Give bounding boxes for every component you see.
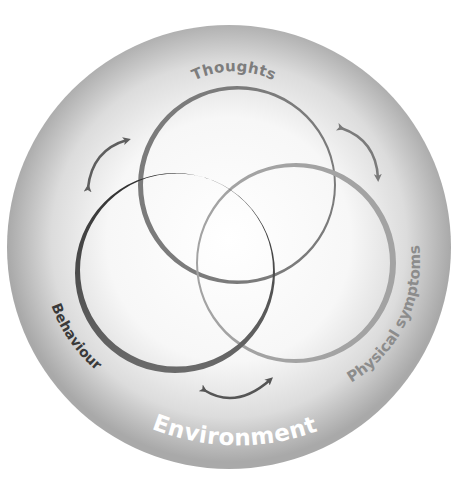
environment-disc xyxy=(7,25,451,469)
cbt-model-diagram: Thoughts Behaviour Physical symptoms Env… xyxy=(0,0,461,479)
